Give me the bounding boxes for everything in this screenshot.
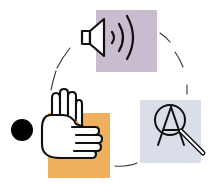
diagram-canvas: Accessibility modalities cycle <box>0 0 221 185</box>
audio-background <box>96 10 157 72</box>
node-audio <box>82 10 157 72</box>
diagram-svg <box>0 0 221 185</box>
node-visual <box>140 100 203 163</box>
node-motor <box>42 89 110 178</box>
black-dot-icon <box>11 119 33 141</box>
